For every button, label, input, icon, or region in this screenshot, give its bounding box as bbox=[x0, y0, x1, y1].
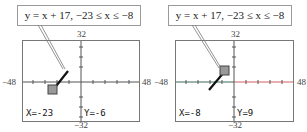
graph-panel-left: y = x + 17, −23 ≤ x ≤ −8 32 −48 48 −32 X… bbox=[0, 0, 153, 132]
callout-pointer bbox=[0, 0, 153, 132]
graph-panel-right: y = x + 17, −23 ≤ x ≤ −8 32 −48 48 −32 X… bbox=[154, 0, 307, 132]
callout-pointer bbox=[154, 0, 307, 132]
